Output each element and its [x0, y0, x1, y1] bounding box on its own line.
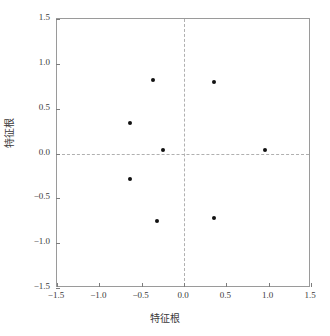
- x-axis-tick-label: −1.0: [78, 290, 118, 301]
- data-point: [155, 219, 159, 223]
- data-point: [151, 78, 155, 82]
- x-axis-tick: [311, 283, 312, 287]
- x-axis-tick-label: 1.0: [248, 290, 288, 301]
- plot-area: [56, 18, 310, 287]
- x-axis-tick: [269, 283, 270, 287]
- data-point: [212, 80, 216, 84]
- x-axis-tick: [226, 283, 227, 287]
- y-axis-tick: [56, 19, 60, 20]
- x-axis-tick-label: −0.5: [121, 290, 161, 301]
- y-axis-tick-label: 0.0: [18, 147, 50, 158]
- x-axis-tick-label: 1.5: [290, 290, 330, 301]
- data-point: [212, 216, 216, 220]
- y-axis-tick-label: 0.5: [18, 102, 50, 113]
- x-axis-tick-label: 0.5: [205, 290, 245, 301]
- y-axis-tick: [56, 288, 60, 289]
- scatter-chart: −1.5−1.0−0.50.00.51.01.51.51.00.50.0−0.5…: [0, 0, 330, 336]
- reference-line-vertical: [184, 19, 185, 286]
- data-point: [128, 177, 132, 181]
- y-axis-tick-label: 1.5: [18, 12, 50, 23]
- x-axis-tick-label: 0.0: [163, 290, 203, 301]
- y-axis-tick-label: −1.5: [18, 281, 50, 292]
- data-point: [128, 121, 132, 125]
- y-axis-tick: [56, 154, 60, 155]
- x-axis-tick: [57, 283, 58, 287]
- x-axis-tick: [142, 283, 143, 287]
- x-axis-tick: [99, 283, 100, 287]
- data-point: [161, 148, 165, 152]
- y-axis-tick: [56, 64, 60, 65]
- x-axis-label: 特征根: [0, 310, 330, 325]
- y-axis-tick: [56, 243, 60, 244]
- y-axis-tick-label: 1.0: [18, 57, 50, 68]
- data-point: [263, 148, 267, 152]
- x-axis-tick: [184, 283, 185, 287]
- y-axis-tick-label: −0.5: [18, 191, 50, 202]
- y-axis-tick: [56, 198, 60, 199]
- reference-line-horizontal: [57, 154, 309, 155]
- y-axis-label: 特征根: [1, 93, 16, 173]
- y-axis-tick-label: −1.0: [18, 236, 50, 247]
- y-axis-tick: [56, 109, 60, 110]
